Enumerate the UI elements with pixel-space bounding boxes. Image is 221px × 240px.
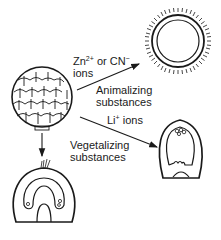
diagram-canvas: Zn2+ or CN− ions Animalizing substances …	[0, 0, 221, 240]
normal-gastrula	[13, 159, 74, 222]
vegetalized-embryo	[159, 120, 202, 178]
blastula	[12, 67, 72, 130]
label-vegetalizing: Vegetalizing	[70, 139, 129, 151]
label-animalizing: Animalizing	[96, 84, 152, 96]
label-animalizing-substances: substances	[96, 96, 152, 108]
label-ions: ions	[73, 67, 93, 79]
label-li-ions: Li+ ions	[107, 114, 143, 126]
label-vegetalizing-substances: substances	[70, 151, 126, 163]
animalized-embryo	[145, 8, 211, 74]
label-zn-cn: Zn2+ or CN−	[73, 55, 130, 67]
